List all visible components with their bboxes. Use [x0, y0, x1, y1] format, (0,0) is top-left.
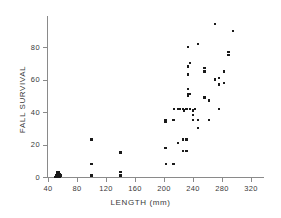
data-point — [90, 174, 92, 176]
x-ticklabel-240: 240 — [181, 184, 205, 193]
scatter-plot-figure: 020406080 4080120160200240280320 LENGTH … — [0, 0, 281, 218]
data-point — [192, 119, 194, 121]
x-tick-280 — [222, 178, 223, 182]
data-point — [90, 163, 92, 165]
data-point — [119, 171, 121, 173]
x-tick-120 — [106, 178, 107, 182]
y-tick-80 — [43, 47, 47, 48]
y-tick-20 — [43, 145, 47, 146]
data-point — [179, 108, 181, 110]
x-ticklabel-200: 200 — [152, 184, 176, 193]
x-ticklabel-120: 120 — [94, 184, 118, 193]
data-point — [164, 121, 166, 123]
data-point — [208, 119, 210, 121]
data-point — [185, 108, 187, 110]
data-point — [183, 109, 185, 111]
data-point — [189, 62, 191, 64]
data-point — [90, 138, 92, 140]
data-point — [185, 138, 187, 140]
x-ticklabel-280: 280 — [210, 184, 234, 193]
data-point — [172, 119, 174, 121]
y-tick-60 — [43, 80, 47, 81]
x-tick-80 — [77, 178, 78, 182]
x-ticklabel-40: 40 — [36, 184, 60, 193]
x-tick-40 — [48, 178, 49, 182]
y-tick-0 — [43, 177, 47, 178]
data-point — [197, 127, 199, 129]
y-axis-label: FALL SURVIVAL — [18, 40, 27, 160]
x-ticklabel-80: 80 — [65, 184, 89, 193]
y-axis-line — [47, 16, 48, 178]
data-point — [197, 119, 199, 121]
x-axis-line — [47, 177, 264, 178]
x-tick-240 — [193, 178, 194, 182]
data-point — [59, 174, 61, 176]
data-point — [223, 70, 225, 72]
data-point — [218, 77, 220, 79]
data-point — [173, 108, 175, 110]
data-point — [187, 46, 189, 48]
data-point — [189, 93, 191, 95]
data-point — [203, 67, 205, 69]
data-point — [182, 150, 184, 152]
x-axis-label: LENGTH (mm) — [0, 198, 281, 207]
data-point — [172, 163, 174, 165]
data-point — [119, 151, 121, 153]
data-point — [227, 51, 229, 53]
data-point — [203, 96, 205, 98]
data-point — [214, 78, 216, 80]
data-point — [187, 65, 189, 67]
data-point — [197, 43, 199, 45]
data-point — [218, 108, 220, 110]
data-point — [192, 114, 194, 116]
data-point — [177, 142, 179, 144]
data-point — [165, 163, 167, 165]
y-ticklabel-0: 0 — [18, 173, 40, 182]
data-point — [119, 174, 121, 176]
x-tick-200 — [164, 178, 165, 182]
data-point — [223, 82, 225, 84]
data-point — [185, 150, 187, 152]
y-tick-40 — [43, 112, 47, 113]
data-point — [187, 73, 189, 75]
data-point — [232, 30, 234, 32]
data-point — [203, 70, 205, 72]
x-tick-320 — [251, 178, 252, 182]
data-point — [194, 108, 196, 110]
data-point — [164, 147, 166, 149]
data-point — [56, 171, 58, 173]
x-ticklabel-160: 160 — [123, 184, 147, 193]
x-tick-160 — [135, 178, 136, 182]
x-ticklabel-320: 320 — [239, 184, 263, 193]
data-point — [182, 138, 184, 140]
data-point — [214, 23, 216, 25]
data-point — [208, 99, 210, 101]
plot-area: 020406080 4080120160200240280320 LENGTH … — [0, 0, 281, 218]
data-point — [187, 88, 189, 90]
data-point — [218, 83, 220, 85]
data-point — [227, 54, 229, 56]
